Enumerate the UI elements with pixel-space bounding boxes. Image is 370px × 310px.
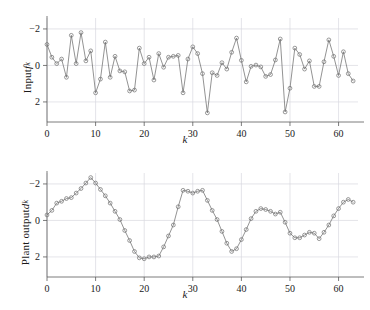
y-axis-label-input-variable: f — [21, 66, 33, 69]
y-axis-label-input-prefix: Input — [21, 69, 33, 93]
chart-panel-output: Plant output dk 20−20102030405060 k — [0, 155, 370, 310]
x-axis-label-output: k — [0, 288, 370, 300]
y-axis-label-output-subscript: k — [21, 200, 30, 204]
figure-two-panel-signals: Input fk 20−20102030405060 k Plant outpu… — [0, 0, 370, 310]
y-axis-label-output: Plant output dk — [10, 155, 40, 310]
y-axis-label-input-subscript: k — [23, 62, 32, 66]
y-axis-label-output-prefix: Plant output — [19, 209, 31, 265]
series-line — [47, 33, 353, 113]
series-line — [47, 178, 353, 259]
plot-area-input: 20−20102030405060 — [0, 0, 370, 155]
x-axis-label-input: k — [0, 133, 370, 145]
y-axis-label-input: Input fk — [12, 0, 42, 155]
y-axis-label-output-variable: d — [19, 204, 31, 210]
plot-area-output: 20−20102030405060 — [0, 155, 370, 310]
chart-panel-input: Input fk 20−20102030405060 k — [0, 0, 370, 155]
